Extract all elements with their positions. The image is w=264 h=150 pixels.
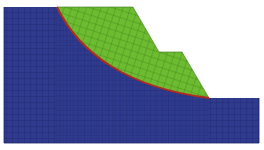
slope-mesh-diagram <box>0 0 264 150</box>
